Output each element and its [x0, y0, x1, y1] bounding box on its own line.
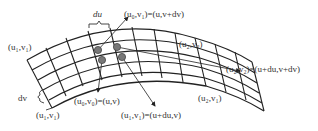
label-dv: dv [18, 94, 27, 103]
label-bottom-right-corner: (u₂,v₁) [198, 94, 222, 103]
node-u-plus-du-v [118, 53, 125, 60]
label-du: du [93, 10, 102, 19]
du-bracket [89, 21, 109, 28]
label-node-origin: (u₀,v₀)=(u,v) [74, 97, 120, 106]
label-node-top: (u₀,v₁)=(u,v+dv) [124, 10, 184, 19]
label-node-u-step: (u₁,v₁)=(u+du,v) [121, 111, 181, 120]
node-u-plus-du-v-plus-dv [113, 43, 120, 50]
label-top-left-corner: (u₁,v₁) [8, 43, 32, 52]
label-bottom-left-corner: (u₁,v₁) [36, 111, 60, 120]
surface-diagram: du dv (u₁,v₁) (u₁,v₁) (u₂,v₂) (u₂,v₁) (u… [0, 0, 318, 131]
node-u-v-plus-dv [94, 46, 101, 53]
node-u-v [98, 56, 105, 63]
label-node-diagonal: (u₂,v₂)=(u+du,v+dv) [226, 65, 300, 74]
label-top-right-corner: (u₂,v₂) [179, 40, 203, 49]
